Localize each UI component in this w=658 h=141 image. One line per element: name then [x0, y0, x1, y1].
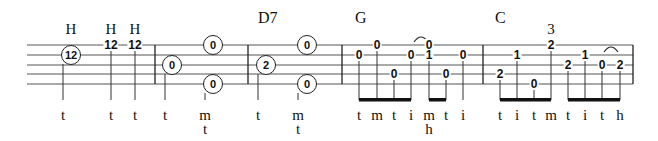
circled-fret-number: 0	[162, 55, 182, 75]
finger-label-secondary: t	[296, 122, 300, 137]
finger-label: t	[133, 108, 137, 123]
circled-fret-number: 0	[203, 74, 223, 94]
fret-number: 2	[547, 39, 556, 51]
chord-label: D7	[258, 10, 278, 26]
finger-label: t	[532, 108, 536, 123]
finger-label-secondary: t	[203, 122, 207, 137]
beam	[359, 98, 411, 102]
technique-mark: H	[106, 22, 117, 37]
finger-label: i	[409, 108, 413, 123]
fret-number: 2	[564, 59, 573, 71]
fret-number: 0	[442, 68, 451, 80]
finger-label: t	[256, 108, 260, 123]
finger-label: t	[444, 108, 448, 123]
fret-number: 1	[425, 49, 434, 61]
beam	[500, 98, 551, 102]
chord-label: C	[495, 10, 506, 26]
finger-label-secondary: h	[425, 122, 433, 137]
technique-mark: H	[130, 22, 141, 37]
finger-label: t	[498, 108, 502, 123]
finger-label: t	[109, 108, 113, 123]
finger-label: t	[163, 108, 167, 123]
circled-fret-number: 0	[297, 35, 317, 55]
finger-label: i	[515, 108, 519, 123]
circled-fret-number: 12	[61, 45, 81, 65]
technique-mark: 3	[547, 22, 555, 37]
fret-number: 12	[127, 39, 142, 51]
finger-label: t	[61, 108, 65, 123]
finger-label: m	[371, 108, 383, 123]
fret-number: 2	[616, 59, 625, 71]
circled-fret-number: 2	[256, 55, 276, 75]
beam	[429, 98, 446, 102]
finger-label: t	[600, 108, 604, 123]
circled-fret-number: 0	[297, 74, 317, 94]
banjo-tab-staff	[0, 0, 658, 141]
beams	[359, 98, 620, 102]
finger-label: t	[566, 108, 570, 123]
slur-arc	[604, 47, 618, 52]
fret-number: 0	[530, 78, 539, 90]
fret-number: 0	[459, 49, 468, 61]
fret-number: 0	[390, 68, 399, 80]
fret-number: 12	[103, 39, 118, 51]
finger-label: t	[357, 108, 361, 123]
fret-number: 1	[513, 49, 522, 61]
finger-label: t	[392, 108, 396, 123]
beam	[568, 98, 620, 102]
fret-number: 0	[355, 49, 364, 61]
fret-number: 0	[407, 49, 416, 61]
chord-label: G	[355, 10, 367, 26]
fret-number: 2	[496, 68, 505, 80]
fret-number: 0	[598, 59, 607, 71]
fret-number: 0	[373, 39, 382, 51]
finger-label: i	[461, 108, 465, 123]
fret-number: 1	[581, 49, 590, 61]
finger-label: i	[583, 108, 587, 123]
circled-fret-number: 0	[203, 35, 223, 55]
technique-mark: H	[66, 22, 77, 37]
finger-label: h	[616, 108, 624, 123]
finger-label: m	[545, 108, 557, 123]
